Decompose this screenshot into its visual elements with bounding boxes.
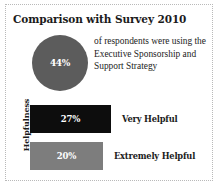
bar-row-extremely-helpful: 20% Extremely Helpful	[30, 142, 210, 170]
circle-stat-shape: 44%	[32, 35, 88, 91]
bar-category-extremely-helpful: Extremely Helpful	[114, 142, 195, 170]
circle-stat-value: 44%	[32, 35, 88, 91]
bar-value-extremely-helpful: 20%	[30, 142, 103, 170]
bar-category-very-helpful: Very Helpful	[122, 105, 177, 133]
circle-stat-row: 44% of respondents were using the Execut…	[6, 32, 214, 94]
infographic-panel: Comparison with Survey 2010 44% of respo…	[5, 4, 213, 181]
bar-row-very-helpful: 27% Very Helpful	[30, 105, 210, 133]
bar-value-very-helpful: 27%	[30, 105, 111, 133]
circle-stat-description: of respondents were using the Executive …	[94, 35, 210, 73]
page-title: Comparison with Survey 2010	[13, 13, 186, 25]
bar-chart: Helpfulness 27% Very Helpful 20% Extreme…	[6, 100, 214, 178]
bar-extremely-helpful: 20%	[30, 142, 103, 170]
bar-very-helpful: 27%	[30, 105, 111, 133]
